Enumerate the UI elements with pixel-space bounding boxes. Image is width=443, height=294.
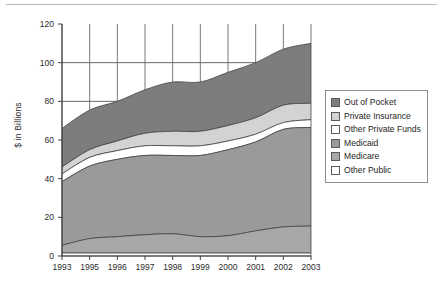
legend-swatch-icon: [331, 125, 340, 134]
legend-item-label: Out of Pocket: [344, 98, 396, 107]
legend-item-private-insurance[interactable]: Private Insurance: [331, 110, 421, 124]
legend-item-other-public[interactable]: Other Public: [331, 164, 421, 178]
legend-item-medicaid[interactable]: Medicaid: [331, 137, 421, 151]
x-axis-tick-labels: 1993199519961997199819992000200120022003: [0, 263, 443, 279]
chart-figure: $ in Billions 020406080100120 1993199519…: [0, 0, 443, 294]
legend-item-label: Medicare: [344, 152, 379, 161]
chart-legend: Out of PocketPrivate InsuranceOther Priv…: [325, 90, 428, 183]
legend-item-label: Other Public: [344, 166, 391, 175]
legend-item-out-of-pocket[interactable]: Out of Pocket: [331, 96, 421, 110]
legend-item-label: Private Insurance: [344, 112, 411, 121]
legend-swatch-icon: [331, 98, 340, 107]
x-tick-label: 2003: [294, 263, 328, 272]
legend-swatch-icon: [331, 112, 340, 121]
legend-swatch-icon: [331, 166, 340, 175]
legend-item-other-private-funds[interactable]: Other Private Funds: [331, 123, 421, 137]
legend-swatch-icon: [331, 152, 340, 161]
legend-item-label: Other Private Funds: [344, 125, 421, 134]
legend-item-label: Medicaid: [344, 139, 378, 148]
legend-item-medicare[interactable]: Medicare: [331, 150, 421, 164]
legend-swatch-icon: [331, 139, 340, 148]
